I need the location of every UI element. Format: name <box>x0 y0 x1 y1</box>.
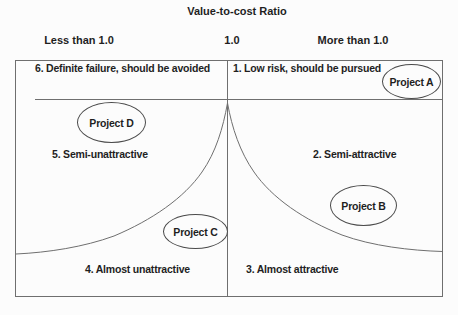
project-a-label: Project A <box>390 76 434 88</box>
project-c-ellipse: Project C <box>163 214 228 249</box>
value-cost-ratio-diagram: Value-to-cost Ratio Less than 1.0 1.0 Mo… <box>0 0 458 315</box>
diagram-border <box>16 61 443 297</box>
project-b-label: Project B <box>341 200 385 212</box>
right-boundary-curve <box>228 103 443 252</box>
region-label-almost-attractive: 3. Almost attractive <box>246 263 338 275</box>
region-label-low-risk: 1. Low risk, should be pursued <box>233 62 381 74</box>
project-d-ellipse: Project D <box>77 102 146 143</box>
region-label-semi-unattractive: 5. Semi-unattractive <box>52 148 148 160</box>
project-a-ellipse: Project A <box>382 64 441 99</box>
region-label-definite-failure: 6. Definite failure, should be avoided <box>35 62 210 74</box>
region-label-semi-attractive: 2. Semi-attractive <box>313 148 396 160</box>
region-label-almost-unattractive: 4. Almost unattractive <box>85 263 190 275</box>
project-c-label: Project C <box>173 226 217 238</box>
project-d-label: Project D <box>89 117 133 129</box>
project-b-ellipse: Project B <box>330 185 397 226</box>
